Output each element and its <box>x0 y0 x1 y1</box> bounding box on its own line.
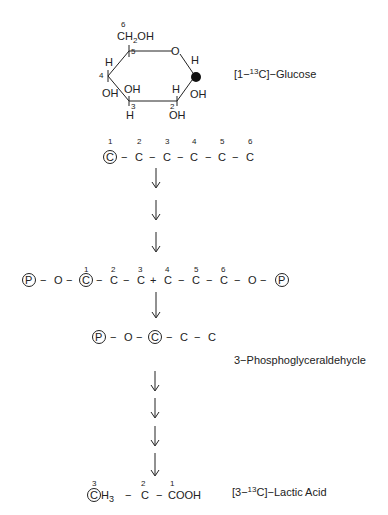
svg-text:−: − <box>96 274 102 286</box>
svg-text:−: − <box>234 274 240 286</box>
glucose-label: [1−13C]−Glucose <box>234 67 316 80</box>
svg-text:−: − <box>206 274 212 286</box>
svg-text:−: − <box>205 151 211 163</box>
glycolysis-diagram: 6 CH2OH 5 O H OH 4 H OH OH 3 H H 2 OH [1… <box>0 0 388 515</box>
lactic-acid-label: [3−13C]−Lactic Acid <box>232 485 327 498</box>
svg-text:H: H <box>172 83 180 95</box>
svg-text:1: 1 <box>108 137 113 146</box>
svg-text:OH: OH <box>124 83 141 95</box>
svg-text:C: C <box>141 489 149 501</box>
svg-text:C: C <box>164 274 172 286</box>
svg-text:H: H <box>126 109 134 121</box>
down-arrow-icon <box>152 292 160 318</box>
svg-text:C: C <box>190 151 198 163</box>
svg-text:−: − <box>123 274 129 286</box>
svg-text:−: − <box>136 331 142 343</box>
svg-text:P: P <box>278 274 285 286</box>
svg-text:5: 5 <box>220 137 225 146</box>
svg-text:H3: H3 <box>101 489 114 504</box>
svg-text:−: − <box>121 151 127 163</box>
svg-text:C: C <box>218 151 226 163</box>
down-arrow-icon <box>152 232 160 252</box>
svg-text:1: 1 <box>84 265 89 274</box>
g3p-label: 3−Phosphoglyceraldehycle <box>234 354 366 366</box>
down-arrow-icon <box>151 398 159 418</box>
down-arrow-icon <box>151 371 159 391</box>
lactic-acid: 3 2 1 C H3 − C − COOH <box>88 479 202 504</box>
svg-text:C: C <box>90 489 98 501</box>
svg-text:4: 4 <box>165 265 170 274</box>
linear-glucose-chain: 1 2 3 4 5 6 C − C − C − C − C − C <box>104 137 255 164</box>
glucose-ring-labels: 6 CH2OH 5 O H OH 4 H OH OH 3 H H 2 OH <box>99 20 207 121</box>
svg-text:P: P <box>25 274 32 286</box>
svg-text:−: − <box>260 274 266 286</box>
down-arrow-icon <box>152 168 160 188</box>
svg-text:5: 5 <box>131 47 136 56</box>
svg-text:+: + <box>150 274 156 286</box>
svg-text:3: 3 <box>92 479 97 488</box>
reaction-arrows-upper <box>152 168 160 252</box>
svg-text:OH: OH <box>190 88 207 100</box>
svg-text:4: 4 <box>192 137 197 146</box>
svg-text:OH: OH <box>102 87 119 99</box>
svg-text:C: C <box>82 274 90 286</box>
svg-text:−: − <box>40 274 46 286</box>
svg-text:2: 2 <box>111 265 116 274</box>
svg-text:C: C <box>106 151 114 163</box>
svg-text:C: C <box>163 151 171 163</box>
fructose-bisphosphate: 1 2 3 4 5 6 P − O − C − C − C + C − C − … <box>23 265 289 287</box>
svg-text:6: 6 <box>221 265 226 274</box>
svg-text:4: 4 <box>99 71 104 80</box>
svg-text:P: P <box>95 331 102 343</box>
svg-text:3: 3 <box>138 265 143 274</box>
svg-text:C: C <box>246 151 254 163</box>
svg-text:O: O <box>248 274 257 286</box>
svg-text:C: C <box>110 274 118 286</box>
glucose-ring <box>108 45 195 106</box>
svg-text:2: 2 <box>137 137 142 146</box>
svg-text:−: − <box>66 274 72 286</box>
down-arrow-icon <box>151 453 159 476</box>
svg-text:−: − <box>232 151 238 163</box>
reaction-arrows-lower <box>151 371 159 476</box>
svg-text:−: − <box>110 331 116 343</box>
svg-text:3: 3 <box>165 137 170 146</box>
svg-text:1: 1 <box>170 479 175 488</box>
svg-text:CH2OH: CH2OH <box>117 30 154 45</box>
svg-text:−: − <box>149 151 155 163</box>
svg-text:−: − <box>194 331 200 343</box>
labeled-carbon-marker <box>191 72 201 82</box>
svg-text:OH: OH <box>169 109 186 121</box>
svg-text:C: C <box>135 151 143 163</box>
svg-text:H: H <box>191 54 199 66</box>
svg-text:−: − <box>177 151 183 163</box>
svg-text:−: − <box>166 331 172 343</box>
svg-text:O: O <box>54 274 63 286</box>
svg-text:COOH: COOH <box>168 489 201 501</box>
svg-text:C: C <box>151 331 159 343</box>
svg-text:−: − <box>178 274 184 286</box>
down-arrow-icon <box>151 426 159 446</box>
svg-text:O: O <box>171 45 180 57</box>
svg-text:−: − <box>125 489 131 501</box>
svg-text:−: − <box>156 489 162 501</box>
svg-text:H: H <box>105 56 113 68</box>
svg-text:O: O <box>124 331 133 343</box>
svg-text:6: 6 <box>248 137 253 146</box>
svg-text:5: 5 <box>194 265 199 274</box>
svg-text:6: 6 <box>121 20 126 29</box>
glyceraldehyde-3-phosphate: P − O − C − C − C <box>93 331 217 344</box>
svg-text:C: C <box>180 331 188 343</box>
reaction-arrow-middle <box>152 292 160 318</box>
down-arrow-icon <box>152 200 160 220</box>
svg-text:C: C <box>220 274 228 286</box>
svg-text:2: 2 <box>141 479 146 488</box>
svg-text:C: C <box>192 274 200 286</box>
svg-text:C: C <box>208 331 216 343</box>
svg-text:C: C <box>137 274 145 286</box>
